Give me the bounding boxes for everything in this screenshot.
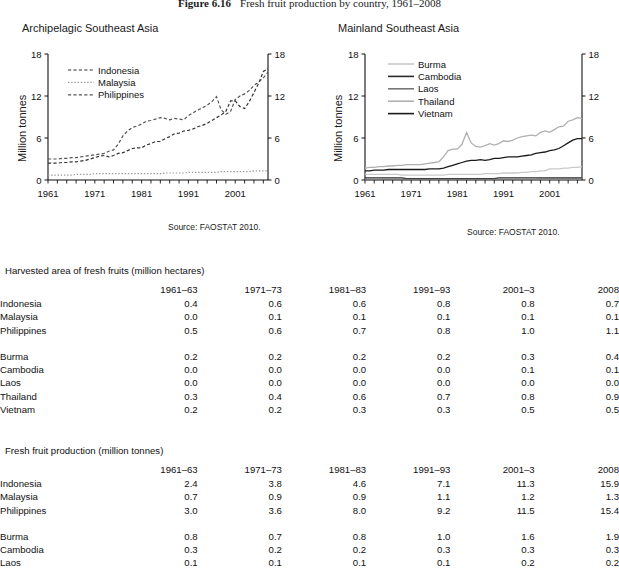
table-row: Burma0.80.70.81.01.61.9 bbox=[0, 530, 619, 543]
table-cell: 0.3 bbox=[366, 403, 450, 416]
y-tick-label-right: 6 bbox=[275, 133, 280, 144]
table-cell: 0.0 bbox=[282, 376, 366, 389]
table-group-spacer bbox=[0, 517, 619, 530]
table-cell: 0.0 bbox=[113, 376, 197, 389]
table-cell: 0.8 bbox=[366, 297, 450, 310]
figure-title: Figure 6.16Fresh fruit production by cou… bbox=[0, 0, 619, 9]
table-row: Philippines3.03.68.09.211.515.4 bbox=[0, 504, 619, 517]
y-tick-label-left: 6 bbox=[353, 133, 358, 144]
x-tick-label: 1981 bbox=[131, 188, 152, 199]
table-cell: 3.0 bbox=[113, 504, 197, 517]
table-cell: 3.8 bbox=[198, 477, 282, 490]
table-cell: 8.0 bbox=[282, 504, 366, 517]
y-tick-label-right: 12 bbox=[589, 91, 600, 102]
table-cell: 0.0 bbox=[450, 376, 534, 389]
chart-legend: BurmaCambodiaLaosThailandVietnam bbox=[388, 59, 462, 120]
y-tick-label-right: 18 bbox=[275, 49, 286, 60]
series-line-philippines bbox=[48, 72, 268, 159]
table-row: Indonesia0.40.60.60.80.80.7 bbox=[0, 297, 619, 310]
table-cell: 7.1 bbox=[366, 477, 450, 490]
table-cell: 0.6 bbox=[198, 297, 282, 310]
table-column-header: 2008 bbox=[535, 463, 619, 477]
table-cell: 0.2 bbox=[113, 403, 197, 416]
table-cell: 9.2 bbox=[366, 504, 450, 517]
table-cell: 0.1 bbox=[366, 556, 450, 569]
chart-svg-archipelagic: 00661212181819611971198119912001Indonesi… bbox=[0, 38, 310, 218]
table-cell: 0.2 bbox=[282, 350, 366, 363]
series-line-vietnam bbox=[365, 139, 582, 171]
table-row: Vietnam0.20.20.30.30.50.5 bbox=[0, 403, 619, 416]
y-tick-label-right: 12 bbox=[275, 91, 286, 102]
x-tick-label: 1961 bbox=[354, 188, 375, 199]
table-cell: 0.1 bbox=[450, 363, 534, 376]
table-corner-cell bbox=[0, 283, 113, 297]
table-cell: 0.0 bbox=[113, 310, 197, 323]
table-cell: 0.6 bbox=[198, 324, 282, 337]
y-tick-label-left: 18 bbox=[31, 49, 42, 60]
legend-label-thailand: Thailand bbox=[418, 96, 454, 107]
table-cell: 0.2 bbox=[450, 556, 534, 569]
chart-title-mainland: Mainland Southeast Asia bbox=[338, 22, 459, 34]
table-cell: 0.5 bbox=[535, 403, 619, 416]
legend-label-malaysia: Malaysia bbox=[98, 77, 136, 88]
table-row-label: Malaysia bbox=[0, 490, 113, 503]
table-cell: 1.3 bbox=[535, 490, 619, 503]
table-row-label: Vietnam bbox=[0, 403, 113, 416]
table-cell: 0.4 bbox=[198, 390, 282, 403]
table-cell: 0.7 bbox=[198, 530, 282, 543]
table-row-label: Philippines bbox=[0, 324, 113, 337]
table-cell: 1.2 bbox=[450, 490, 534, 503]
table-cell: 0.4 bbox=[113, 297, 197, 310]
table-cell: 0.3 bbox=[535, 543, 619, 556]
table-cell: 0.2 bbox=[198, 543, 282, 556]
table-cell: 0.5 bbox=[113, 324, 197, 337]
table-header-row: 1961–631971–731981–831991–932001–32008 bbox=[0, 283, 619, 297]
table-row: Thailand0.30.40.60.70.80.9 bbox=[0, 390, 619, 403]
table-column-header: 1981–83 bbox=[282, 463, 366, 477]
table-cell: 0.6 bbox=[282, 390, 366, 403]
table-cell: 0.2 bbox=[366, 350, 450, 363]
table-row-label: Thailand bbox=[0, 390, 113, 403]
table-row-label: Burma bbox=[0, 530, 113, 543]
table-row-label: Laos bbox=[0, 556, 113, 569]
table-column-header: 2001–3 bbox=[450, 283, 534, 297]
figure-number: Figure 6.16 bbox=[178, 0, 231, 9]
x-tick-label: 1991 bbox=[178, 188, 199, 199]
table-cell: 0.2 bbox=[198, 350, 282, 363]
table-row: Cambodia0.30.20.20.30.30.3 bbox=[0, 543, 619, 556]
table-cell: 4.6 bbox=[282, 477, 366, 490]
table-cell: 0.1 bbox=[198, 556, 282, 569]
table-cell: 0.9 bbox=[198, 490, 282, 503]
table-column-header: 1971–73 bbox=[198, 463, 282, 477]
table-column-header: 2001–3 bbox=[450, 463, 534, 477]
table-row-label: Laos bbox=[0, 376, 113, 389]
table-cell: 0.0 bbox=[198, 376, 282, 389]
table-cell: 2.4 bbox=[113, 477, 197, 490]
legend-label-cambodia: Cambodia bbox=[418, 71, 462, 82]
table-cell: 0.2 bbox=[113, 350, 197, 363]
table-row: Cambodia0.00.00.00.00.10.1 bbox=[0, 363, 619, 376]
table-row: Indonesia2.43.84.67.111.315.9 bbox=[0, 477, 619, 490]
table-cell: 1.6 bbox=[450, 530, 534, 543]
table-column-header: 1981–83 bbox=[282, 283, 366, 297]
table-caption-harvested-area: Harvested area of fresh fruits (million … bbox=[5, 265, 204, 276]
x-tick-label: 1991 bbox=[493, 188, 514, 199]
chart-archipelagic: 00661212181819611971198119912001Indonesi… bbox=[0, 38, 310, 218]
table-cell: 0.1 bbox=[198, 310, 282, 323]
legend-label-philippines: Philippines bbox=[98, 89, 144, 100]
table-row-label: Indonesia bbox=[0, 477, 113, 490]
table-cell: 11.5 bbox=[450, 504, 534, 517]
table-row-label: Indonesia bbox=[0, 297, 113, 310]
table-cell: 0.9 bbox=[282, 490, 366, 503]
y-tick-label-right: 0 bbox=[589, 175, 594, 186]
table-production: 1961–631971–731981–831991–932001–32008In… bbox=[0, 463, 619, 570]
spacer-cell bbox=[0, 517, 619, 530]
table-cell: 0.1 bbox=[450, 310, 534, 323]
table-harvested-area: 1961–631971–731981–831991–932001–32008In… bbox=[0, 283, 619, 416]
table-row: Laos0.10.10.10.10.20.2 bbox=[0, 556, 619, 569]
x-tick-label: 2001 bbox=[225, 188, 246, 199]
chart-plot-area: 00661212181819611971198119912001Indonesi… bbox=[31, 49, 285, 199]
table-cell: 0.8 bbox=[282, 530, 366, 543]
table-cell: 0.0 bbox=[198, 363, 282, 376]
table-row-label: Malaysia bbox=[0, 310, 113, 323]
